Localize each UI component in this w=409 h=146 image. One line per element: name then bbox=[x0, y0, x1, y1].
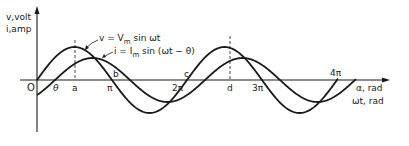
x-axis-label-alpha: α, rad bbox=[356, 84, 383, 93]
x-axis-arrow-icon bbox=[382, 78, 390, 83]
x-axis-label-wt: ωt, rad bbox=[352, 97, 384, 106]
tick-4pi-label: 4π bbox=[330, 69, 341, 78]
y-axis-label-volt: v,volt bbox=[6, 13, 31, 22]
tick-pi-label: π bbox=[107, 84, 112, 93]
point-d-label: d bbox=[227, 84, 233, 93]
theta-label: θ bbox=[53, 84, 59, 93]
y-axis-label-amp: i,amp bbox=[6, 25, 31, 34]
diagram-canvas bbox=[0, 0, 409, 146]
origin-label: O bbox=[27, 83, 35, 93]
voltage-equation: v = Vm sin ωt bbox=[99, 34, 160, 46]
tick-3pi-label: 3π bbox=[252, 84, 263, 93]
point-c-label: c bbox=[184, 70, 189, 79]
voltage-leader-line bbox=[86, 40, 98, 48]
tick-2pi-label: 2π bbox=[172, 84, 183, 93]
sine-phase-diagram: v,volt i,amp α, rad ωt, rad v = Vm sin ω… bbox=[0, 0, 409, 146]
point-b-label: b bbox=[113, 70, 119, 79]
point-a-label: a bbox=[72, 84, 78, 93]
y-axis-arrow-icon bbox=[35, 6, 40, 14]
current-equation: i = Im sin (ωt − θ) bbox=[114, 47, 195, 59]
